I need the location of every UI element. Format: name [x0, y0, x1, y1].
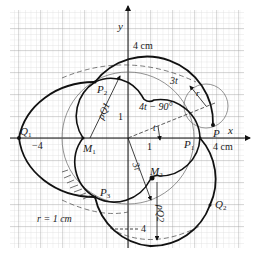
x-axis-label: x: [227, 124, 233, 136]
angle-3t-label: 3t: [169, 75, 178, 86]
radius-r-label: r: [196, 88, 200, 98]
y-tick-1-label: 1: [118, 111, 123, 122]
y-axis-label: y: [117, 20, 123, 32]
radius-note-label: r = 1 cm: [37, 213, 72, 224]
bottom-dimension-label: 4: [141, 223, 146, 234]
angle-t-label: t: [153, 122, 156, 133]
point-P1: [199, 137, 202, 140]
label-P: P: [212, 127, 220, 139]
left-tick-label: −4: [32, 140, 43, 151]
point-M1: [82, 137, 85, 140]
right-dimension-label: 4 cm: [213, 141, 233, 152]
point-P3: [94, 196, 97, 199]
top-dimension-label: 4 cm: [133, 40, 153, 51]
point-Q2: [209, 204, 212, 207]
x-tick-1-label: 1: [147, 141, 152, 152]
angle-label: 4t − 90°: [139, 101, 173, 112]
diagram-canvas: y x 4 cm 4 cm −4 4 1 1 4t − 90° t 3t r 3…: [0, 0, 256, 259]
rho-q2-label: ρQ2: [155, 204, 166, 222]
